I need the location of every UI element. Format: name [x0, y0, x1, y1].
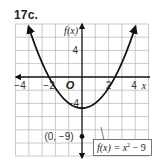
equation-leader-line: [101, 127, 104, 140]
y-axis-label: f(x): [64, 25, 79, 37]
x-axis-label: x: [141, 80, 147, 91]
x-tick-4: 4: [131, 80, 137, 91]
equation-suffix: − 9: [130, 142, 146, 153]
x-tick-neg4: −4: [14, 80, 26, 91]
equation-prefix: f(x) = x: [97, 142, 128, 154]
vertex-label: (0, −9): [44, 131, 73, 142]
y-tick-4: 4: [72, 45, 78, 56]
vertex-point: [80, 134, 85, 139]
origin-label: O: [66, 79, 75, 91]
equation-label: f(x) = x2 − 9: [97, 142, 146, 154]
function-graph: −4 −2 2 4 x 4 −4 f(x) O (0, −9) f(x) = x…: [0, 0, 158, 162]
